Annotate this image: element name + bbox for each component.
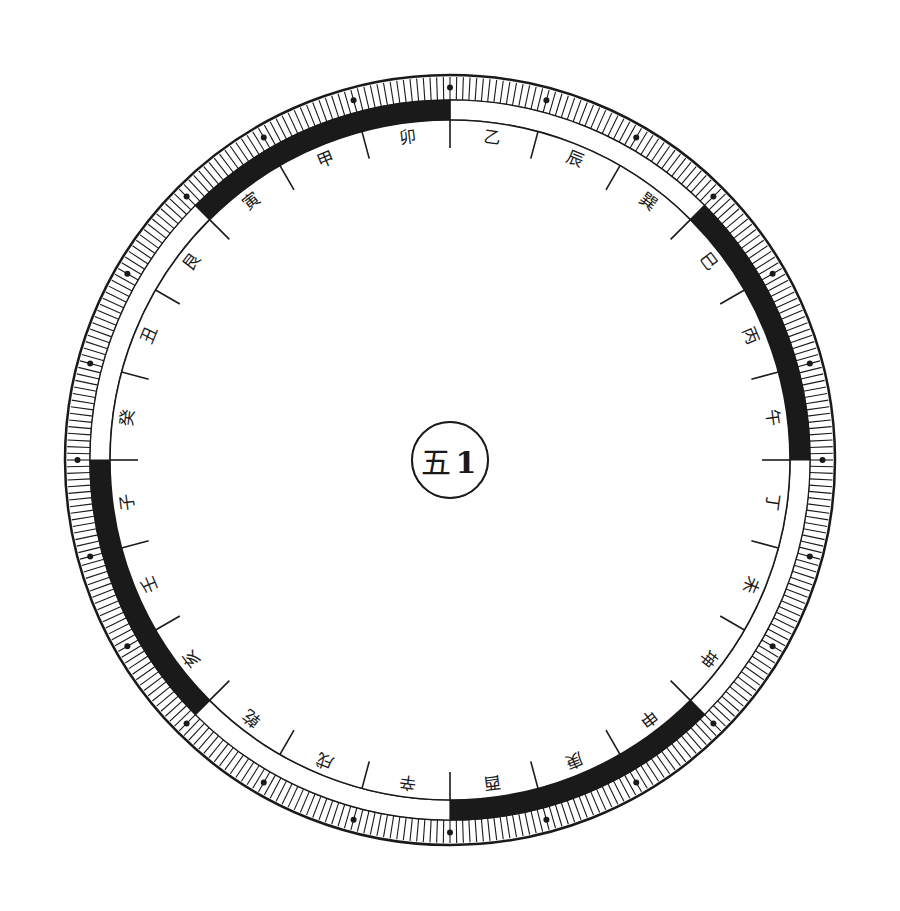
tick-dot <box>75 457 81 463</box>
ring-cell-label: 卯 <box>398 126 417 148</box>
tick-dot <box>710 720 716 726</box>
tick-dot <box>820 457 826 463</box>
tick-dot <box>87 553 93 559</box>
ring-cell-label: 癸 <box>116 408 138 427</box>
tick-dot <box>710 194 716 200</box>
tick-dot <box>124 271 130 277</box>
tick-dot <box>543 97 549 103</box>
ring-cell-label: 辛 <box>398 772 417 794</box>
tick-dot <box>447 85 453 91</box>
tick-dot <box>543 817 549 823</box>
tick-dot <box>807 361 813 367</box>
ring-cell-label: 午 <box>762 408 784 427</box>
tick-dot <box>351 817 357 823</box>
tick-dot <box>351 97 357 103</box>
tick-dot <box>447 830 453 836</box>
luoshu-wheel-diagram: 巽離坤兌乾坎艮震木風火天土地金澤天水水水山木地大木三震日四木火九離坤二土兌七金乾… <box>0 0 900 911</box>
tick-dot <box>807 553 813 559</box>
center-label-one: 1 <box>456 445 477 480</box>
tick-dot <box>770 643 776 649</box>
tick-dot <box>633 780 639 786</box>
ring-cell-label: 子 <box>116 493 138 512</box>
tick-dot <box>261 134 267 140</box>
tick-dot <box>184 720 190 726</box>
center-label-five: 五 <box>421 445 451 480</box>
ring-cell-label: 乙 <box>483 126 502 148</box>
tick-dot <box>124 643 130 649</box>
center-hub: 五 1 <box>412 422 488 498</box>
ring-cell-label: 丁 <box>762 493 784 512</box>
tick-dot <box>87 361 93 367</box>
tick-dot <box>633 134 639 140</box>
tick-dot <box>184 194 190 200</box>
ring-cell-label: 酉 <box>483 772 502 794</box>
tick-dot <box>261 780 267 786</box>
tick-dot <box>770 271 776 277</box>
